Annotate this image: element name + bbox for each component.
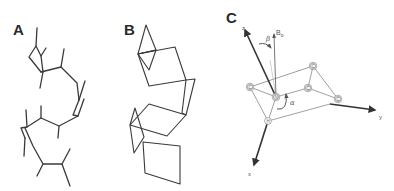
b0-label-subscript: o [281, 32, 284, 38]
beta-arc [259, 44, 271, 49]
b0-label: Bo [276, 29, 283, 38]
panel-c-coordinate-frame: C C C C N H [0, 0, 394, 191]
figure: A B C [0, 0, 394, 191]
beta-label: β [266, 36, 270, 43]
z-axis-label: z [242, 25, 245, 31]
y-axis-label: y [379, 114, 382, 120]
atom-label-n: N [274, 95, 277, 100]
atom-label-h: H [266, 119, 269, 124]
x-axis [254, 121, 268, 165]
atoms [246, 62, 342, 124]
alpha-label: α [290, 100, 295, 107]
y-axis [330, 104, 375, 110]
x-axis-label: x [248, 171, 251, 177]
